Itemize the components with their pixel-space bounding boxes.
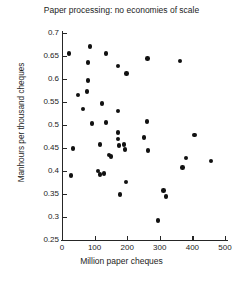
data-point bbox=[145, 119, 150, 124]
data-point bbox=[123, 147, 128, 152]
data-point bbox=[161, 188, 166, 193]
data-point bbox=[100, 101, 105, 106]
data-point bbox=[116, 130, 121, 135]
data-point bbox=[118, 192, 123, 197]
x-axis-label: Million paper cheques bbox=[0, 256, 243, 266]
x-tick-label: 500 bbox=[210, 243, 240, 252]
y-tick bbox=[63, 240, 67, 241]
data-point bbox=[124, 71, 129, 76]
y-tick-label: 0.55 bbox=[43, 98, 59, 106]
data-point bbox=[102, 171, 107, 176]
x-tick-label: 200 bbox=[112, 243, 142, 252]
data-point bbox=[67, 51, 72, 56]
data-point bbox=[164, 194, 169, 199]
x-axis-line bbox=[61, 240, 228, 241]
y-tick-label: 0.65 bbox=[43, 52, 59, 60]
data-point bbox=[86, 78, 91, 83]
x-tick-label: 300 bbox=[145, 243, 175, 252]
data-point bbox=[88, 44, 93, 49]
y-tick-label: 0.35 bbox=[43, 190, 59, 198]
data-point bbox=[98, 142, 103, 147]
data-point bbox=[85, 89, 90, 94]
y-tick-label: 0.7 bbox=[48, 29, 59, 37]
data-point bbox=[86, 60, 91, 65]
x-tick bbox=[225, 236, 226, 240]
data-point bbox=[90, 121, 95, 126]
data-point bbox=[109, 154, 114, 159]
chart-title: Paper processing: no economies of scale bbox=[0, 5, 243, 16]
y-tick-label: 0.6 bbox=[48, 75, 59, 83]
x-tick-label: 100 bbox=[80, 243, 110, 252]
y-tick-label: 0.4 bbox=[48, 167, 59, 175]
y-tick-label: 0.45 bbox=[43, 144, 59, 152]
data-point bbox=[180, 165, 185, 170]
y-axis-label: Manhours per thousand cheques bbox=[17, 48, 26, 198]
x-tick-label: 400 bbox=[177, 243, 207, 252]
data-point bbox=[71, 146, 76, 151]
y-tick-label: 0.3 bbox=[48, 213, 59, 221]
data-point bbox=[156, 218, 161, 223]
y-tick-label: 0.5 bbox=[48, 121, 59, 129]
x-tick-label: 0 bbox=[47, 243, 77, 252]
scatter-chart-figure: Paper processing: no economies of scale … bbox=[0, 0, 243, 281]
